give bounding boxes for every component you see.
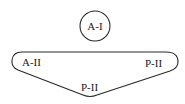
diagram-canvas: A-I A-II P-II P-II (0, 0, 185, 104)
node-a-i: A-I (80, 11, 110, 41)
group-label-right: P-II (145, 57, 162, 69)
group-triangle: A-II P-II P-II (12, 52, 178, 97)
node-a-i-label: A-I (87, 20, 103, 32)
group-label-bottom: P-II (81, 81, 98, 93)
group-label-left: A-II (22, 56, 41, 68)
